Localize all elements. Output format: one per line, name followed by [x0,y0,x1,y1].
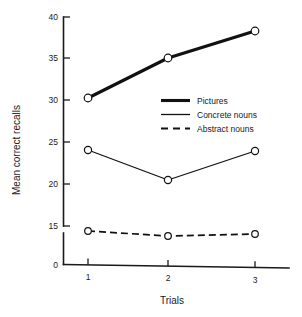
data-point-abstract-trial-1 [85,228,92,235]
series-concrete-nouns [84,146,258,183]
data-point-pictures-trial-3 [251,27,259,35]
series-abstract-nouns [85,228,259,240]
y-tick-label-35: 35 [49,53,59,63]
legend-item-abstract-nouns: Abstract nouns [161,124,254,134]
legend-label-abstract-nouns: Abstract nouns [197,124,254,134]
chart-legend: Pictures Concrete nouns Abstract nouns [161,96,257,134]
series-pictures [84,27,259,102]
x-tick-label-1: 1 [86,272,91,282]
y-tick-label-30: 30 [49,95,59,105]
y-tick-label-0: 0 [53,260,58,270]
data-point-concrete-trial-3 [251,147,258,154]
data-point-pictures-trial-1 [84,94,92,102]
line-chart-canvas: 40 35 30 25 20 15 0 1 2 3 Mean correct r… [0,0,302,317]
x-tick-label-2: 2 [166,273,171,283]
legend-item-concrete-nouns: Concrete nouns [161,110,257,120]
y-tick-label-25: 25 [49,137,59,147]
legend-label-pictures: Pictures [197,96,228,106]
y-tick-labels: 40 35 30 25 20 15 0 [49,12,59,270]
x-axis-title: Trials [160,295,184,306]
series-concrete-nouns-line [88,150,255,180]
series-pictures-line [88,31,255,98]
y-axis-title: Mean correct recalls [11,105,22,195]
data-point-abstract-trial-3 [252,231,259,238]
data-point-pictures-trial-2 [164,54,172,62]
legend-item-pictures: Pictures [161,96,228,106]
x-tick-labels: 1 2 3 [86,272,258,285]
data-point-concrete-trial-1 [84,146,91,153]
y-tick-label-40: 40 [49,12,59,22]
y-tick-marks [64,17,71,226]
y-tick-label-20: 20 [49,179,59,189]
data-point-abstract-trial-2 [165,233,172,240]
x-tick-label-3: 3 [253,275,258,285]
chart-figure: 40 35 30 25 20 15 0 1 2 3 Mean correct r… [0,0,302,317]
y-tick-label-15: 15 [49,221,59,231]
data-point-concrete-trial-2 [164,176,171,183]
legend-label-concrete-nouns: Concrete nouns [197,110,257,120]
